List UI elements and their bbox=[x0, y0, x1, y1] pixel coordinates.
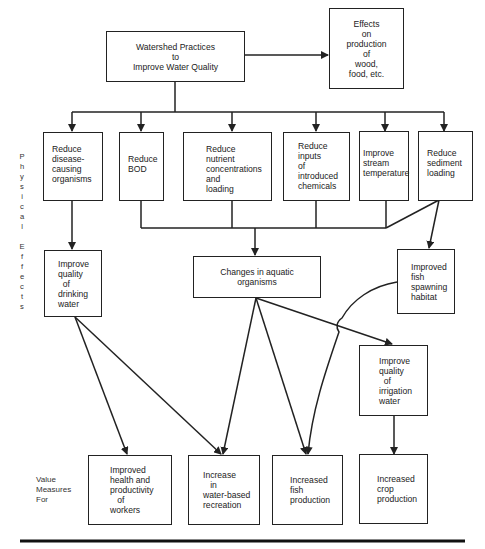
label: Reduce inputs of introduced chemicals bbox=[298, 141, 349, 191]
watershed-flow-diagram: Watershed Practices to Improve Water Qua… bbox=[0, 0, 485, 549]
box-improve-stream-temperature: Improve stream temperature bbox=[359, 131, 409, 201]
box-fish-production: Increased fish production bbox=[272, 455, 343, 525]
label: Increased crop production bbox=[377, 474, 427, 504]
box-worker-health: Improved health and productivity of work… bbox=[88, 455, 172, 525]
label: Reduce sediment loading bbox=[427, 148, 472, 178]
box-crop-production: Increased crop production bbox=[359, 454, 428, 524]
box-reduce-nutrient: Reduce nutrient concentrations and loadi… bbox=[183, 132, 272, 201]
box-reduce-disease-organisms: Reduce disease- causing organisms bbox=[43, 132, 103, 201]
label: Reduce disease- causing organisms bbox=[52, 144, 102, 184]
label: Improve quality of drinking water bbox=[58, 259, 101, 309]
label: Improve quality of irrigation water bbox=[379, 356, 427, 406]
box-reduce-sediment: Reduce sediment loading bbox=[418, 131, 473, 201]
label: Improve stream temperature bbox=[363, 148, 408, 178]
physical-effects-label: P h y s i c a l E f f e c t s bbox=[18, 152, 26, 312]
box-water-recreation: Increase in water-based recreation bbox=[188, 455, 260, 525]
label: Improved fish spawning habitat bbox=[411, 262, 454, 302]
side-effect-label: Effects on production of wood, food, etc… bbox=[330, 19, 403, 79]
root-label: Watershed Practices to Improve Water Qua… bbox=[107, 42, 244, 72]
label: Changes in aquatic organisms bbox=[194, 267, 320, 287]
label: Increased fish production bbox=[290, 475, 342, 505]
root-box-watershed-practices: Watershed Practices to Improve Water Qua… bbox=[106, 31, 245, 82]
box-improve-drinking-water: Improve quality of drinking water bbox=[44, 250, 102, 317]
label: Reduce nutrient concentrations and loadi… bbox=[206, 144, 271, 194]
label: Increase in water-based recreation bbox=[203, 470, 259, 510]
box-fish-spawning-habitat: Improved fish spawning habitat bbox=[397, 249, 455, 314]
box-changes-aquatic-organisms: Changes in aquatic organisms bbox=[193, 256, 321, 298]
box-effects-on-production: Effects on production of wood, food, etc… bbox=[329, 8, 404, 89]
box-improve-irrigation-water: Improve quality of irrigation water bbox=[359, 345, 428, 416]
label: Reduce BOD bbox=[128, 154, 163, 174]
box-reduce-bod: Reduce BOD bbox=[119, 132, 164, 201]
label: Improved health and productivity of work… bbox=[110, 465, 171, 515]
box-reduce-chemicals: Reduce inputs of introduced chemicals bbox=[283, 132, 350, 201]
value-measures-label: Value Measures For bbox=[36, 475, 71, 505]
